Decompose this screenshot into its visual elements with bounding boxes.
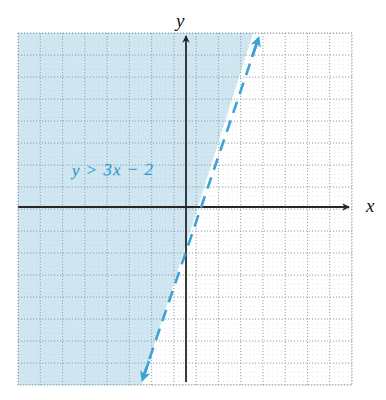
grid-lines [18, 33, 352, 385]
y-axis-label: y [176, 11, 184, 30]
inequality-annotation: y > 3x − 2 [72, 159, 202, 180]
graph-figure: y x y > 3x − 2 [0, 0, 386, 400]
x-axis-label: x [366, 196, 374, 215]
coordinate-plane-svg [0, 0, 386, 400]
